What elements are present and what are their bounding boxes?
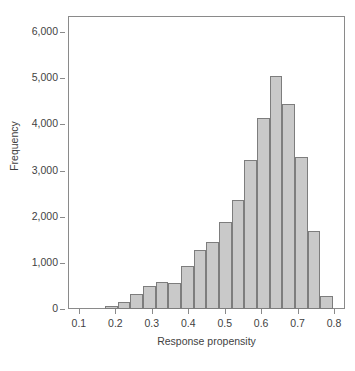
x-axis-tick-mark	[261, 309, 262, 314]
histogram-bar	[270, 76, 283, 309]
y-axis-tick-mark	[60, 217, 65, 218]
histogram-bar	[156, 282, 169, 309]
histogram-bar	[295, 157, 308, 309]
histogram-bar	[282, 104, 295, 309]
y-axis-tick-mark	[60, 171, 65, 172]
histogram-bars	[68, 16, 345, 309]
y-axis-title: Frequency	[8, 101, 20, 191]
x-axis-tick-mark	[115, 309, 116, 314]
histogram-bar	[130, 294, 143, 309]
histogram-bar	[143, 286, 156, 309]
x-axis-tick-mark	[225, 309, 226, 314]
histogram-bar	[320, 296, 333, 309]
histogram-bar	[232, 200, 245, 309]
histogram-bar	[244, 160, 257, 309]
y-axis-tick-label: 2,000	[32, 210, 58, 223]
histogram-bar	[308, 231, 321, 309]
histogram-bar	[168, 283, 181, 309]
y-axis-tick-label: 6,000	[32, 25, 58, 38]
y-axis-tick-label: 3,000	[32, 164, 58, 177]
x-axis-tick-mark	[298, 309, 299, 314]
histogram-bar	[194, 250, 207, 309]
x-axis-tick-label: 0.2	[101, 317, 129, 329]
x-axis-tick-label: 0.6	[247, 317, 275, 329]
x-axis-tick-label: 0.4	[174, 317, 202, 329]
histogram-bar	[206, 242, 219, 309]
x-axis-tick-label: 0.5	[211, 317, 239, 329]
y-axis-tick-label: 4,000	[32, 117, 58, 130]
y-axis-tick-label: 1,000	[32, 256, 58, 269]
x-axis-title: Response propensity	[68, 335, 345, 347]
x-axis-tick-label: 0.1	[65, 317, 93, 329]
histogram-bar	[118, 302, 131, 309]
y-axis-tick-label: 5,000	[32, 71, 58, 84]
x-axis-tick-label: 0.3	[138, 317, 166, 329]
x-axis-tick-label: 0.8	[320, 317, 348, 329]
histogram-bar	[219, 222, 232, 309]
y-axis-tick-mark	[60, 124, 65, 125]
x-axis: Response propensity 0.10.20.30.40.50.60.…	[0, 309, 355, 371]
histogram-figure: Frequency 01,0002,0003,0004,0005,0006,00…	[0, 0, 355, 371]
x-axis-tick-mark	[152, 309, 153, 314]
x-axis-tick-mark	[188, 309, 189, 314]
x-axis-tick-mark	[79, 309, 80, 314]
y-axis-tick-mark	[60, 263, 65, 264]
x-axis-tick-label: 0.7	[284, 317, 312, 329]
y-axis-tick-mark	[60, 78, 65, 79]
histogram-bar	[257, 118, 270, 309]
y-axis-tick-mark	[60, 32, 65, 33]
x-axis-tick-mark	[334, 309, 335, 314]
histogram-bar	[181, 266, 194, 309]
